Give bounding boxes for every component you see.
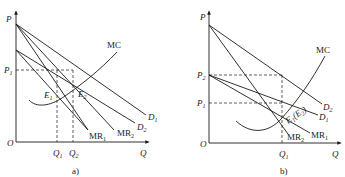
price-p1-label: P1	[196, 98, 206, 109]
d1-label: D1	[318, 112, 329, 123]
quantity-q2-label: Q2	[69, 148, 79, 159]
quantity-axis-label: Q	[140, 148, 147, 158]
marginal-revenue-curve-mr1	[209, 75, 310, 133]
equilibrium-e1-e2-label: E1(E2)	[283, 104, 309, 127]
mr2-label: MR2	[287, 132, 304, 143]
quantity-axis-label: Q	[332, 149, 339, 159]
panel-a-caption: a)	[72, 166, 79, 176]
price-axis-label: P	[199, 12, 206, 22]
price-axis-label: P	[5, 14, 12, 24]
d2-label: D2	[136, 122, 147, 133]
equilibrium-e2-label: E2	[77, 89, 87, 100]
panel-a: P O Q P1 Q1 Q2 MC D1 D2 MR1 MR2 E1 E2 a)	[3, 12, 158, 176]
marginal-revenue-curve-mr1	[16, 24, 88, 130]
quantity-q1-label: Q1	[53, 148, 63, 159]
marginal-cost-curve	[236, 56, 325, 130]
d1-label: D1	[147, 112, 158, 123]
marginal-revenue-curve-mr2	[16, 24, 114, 130]
monopoly-diagrams: P O Q P1 Q1 Q2 MC D1 D2 MR1 MR2 E1 E2 a)	[0, 0, 345, 177]
demand-curve-d2	[209, 25, 322, 104]
origin-label: O	[200, 139, 207, 149]
panel-b-caption: b)	[280, 166, 288, 176]
mc-label: MC	[316, 45, 330, 55]
demand-curve-d1	[16, 24, 146, 115]
quantity-q1-label: Q1	[279, 149, 289, 160]
price-p2-label: P2	[196, 70, 206, 81]
price-p1-label: P1	[3, 65, 13, 76]
equilibrium-e1-label: E1	[43, 90, 53, 101]
panel-b: P O Q P2 P1 Q1 MC D2 D1 MR1 MR2 E1(E2) b…	[196, 12, 340, 176]
mr1-label: MR1	[89, 131, 106, 142]
mr1-label: MR1	[311, 130, 328, 141]
mr2-label: MR2	[117, 128, 134, 139]
mc-label: MC	[107, 40, 121, 50]
origin-label: O	[7, 138, 14, 148]
